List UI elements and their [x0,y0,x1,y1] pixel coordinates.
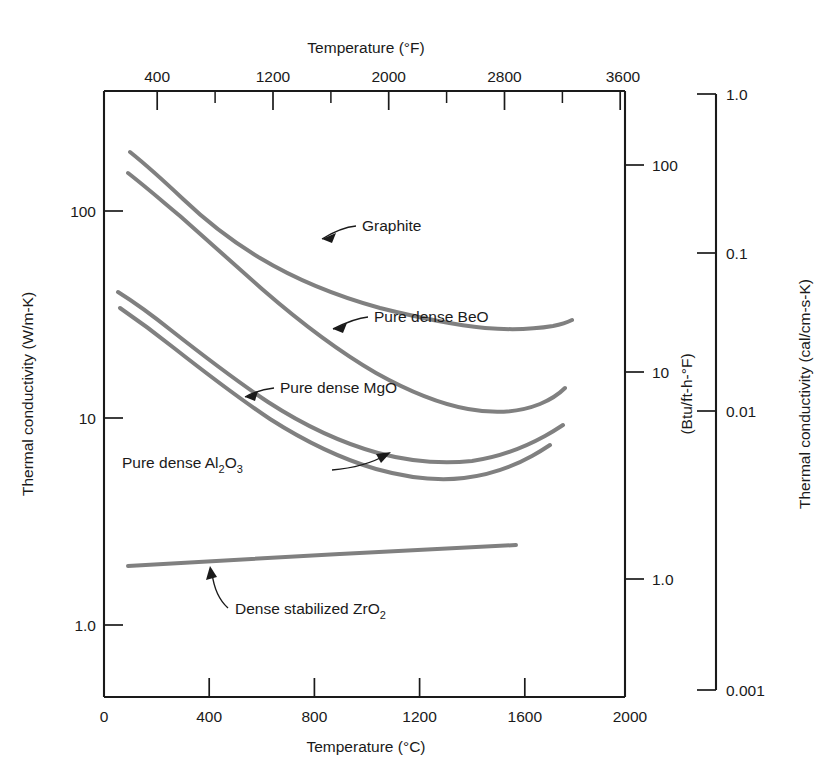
zro2-sub-2: 2 [380,609,386,621]
al2o3-mid-o: O [225,454,237,471]
thermal-conductivity-chart: 400 1200 2000 2800 3600 Temperature (°F)… [0,0,837,777]
left-tick-label-1: 1.0 [74,617,96,634]
top-tick-label-4: 3600 [606,68,641,85]
bottom-tick-label-2: 800 [301,708,327,725]
left-tick-label-100: 100 [70,203,96,220]
btu-tick-label-1: 1.0 [652,571,674,588]
cal-tick-label-1: 1.0 [726,86,748,103]
btu-tick-label-100: 100 [652,157,678,174]
left-tick-label-10: 10 [79,410,97,427]
bottom-tick-label-1: 400 [196,708,222,725]
left-axis-title: Thermal conductivity (W/m-K) [19,292,36,496]
chart-figure: 400 1200 2000 2800 3600 Temperature (°F)… [0,0,837,777]
top-tick-label-0: 400 [144,68,170,85]
al2o3-main: Pure dense Al [122,454,219,471]
top-axis-title: Temperature (°F) [307,39,424,56]
bottom-tick-label-3: 1200 [402,708,437,725]
cal-tick-label-0-01: 0.01 [726,403,756,420]
annotation-label-beo: Pure dense BeO [374,308,489,325]
zro2-main: Dense stabilized ZrO [235,600,380,617]
chart-background [0,0,837,777]
top-tick-label-1: 1200 [256,68,291,85]
bottom-tick-label-4: 1600 [508,708,543,725]
cal-tick-label-0-1: 0.1 [726,245,748,262]
bottom-axis-title: Temperature (°C) [306,738,425,755]
bottom-tick-label-0: 0 [100,708,109,725]
al2o3-sub-3: 3 [237,463,243,475]
bottom-tick-label-5: 2000 [613,708,648,725]
cal-tick-label-0-001: 0.001 [726,682,765,699]
annotation-label-graphite: Graphite [362,217,421,234]
annotation-label-mgo: Pure dense MgO [280,379,397,396]
cal-axis-title: Thermal conductivity (cal/cm-s-K) [796,279,813,509]
top-tick-label-3: 2800 [487,68,522,85]
top-tick-label-2: 2000 [371,68,406,85]
btu-tick-label-10: 10 [652,364,670,381]
annotation-label-mgo-text: Pure dense MgO [280,379,397,396]
btu-axis-title: (Btu/ft-h-°F) [678,353,695,434]
